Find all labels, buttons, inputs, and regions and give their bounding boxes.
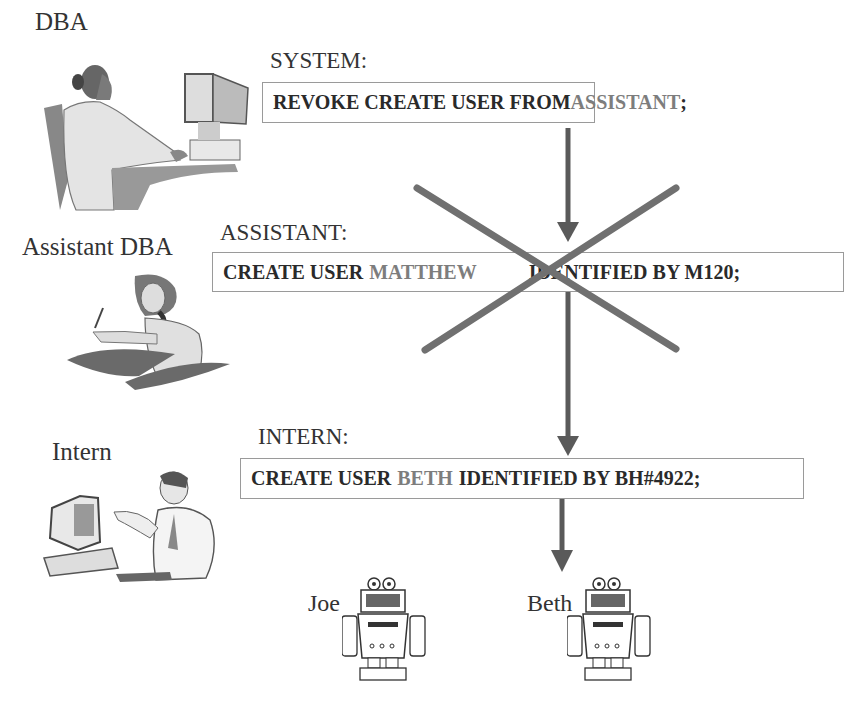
robot-icon — [342, 576, 426, 682]
cross-out-icon — [417, 188, 676, 350]
arrow-assistant-to-intern — [557, 292, 579, 456]
arrow-system-to-assistant — [557, 128, 579, 242]
robot-icon — [567, 576, 651, 682]
user-label-joe: Joe — [308, 590, 340, 617]
arrow-intern-to-users — [551, 499, 573, 572]
flow-overlay — [0, 0, 863, 717]
user-label-beth: Beth — [527, 590, 572, 617]
